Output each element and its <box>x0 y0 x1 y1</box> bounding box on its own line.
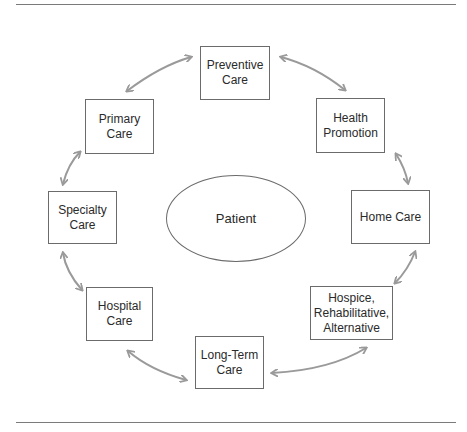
node-label: Health Promotion <box>323 111 378 141</box>
arrow-preventive-health <box>281 57 345 90</box>
arrow-specialty-primary <box>63 152 80 184</box>
node-primary-care: Primary Care <box>85 99 154 154</box>
node-label: Specialty Care <box>58 203 107 233</box>
arrow-hospital-specialty <box>63 253 82 290</box>
node-home-care: Home Care <box>351 190 430 244</box>
arrow-home-hospice <box>395 252 415 283</box>
arrow-longterm-hospital <box>128 351 186 380</box>
node-label: Preventive Care <box>207 58 264 88</box>
node-hospital-care: Hospital Care <box>86 287 153 341</box>
arrow-health-home <box>396 154 408 183</box>
patient-ellipse: Patient <box>166 175 306 262</box>
node-label: Primary Care <box>99 112 140 142</box>
node-health-promotion: Health Promotion <box>316 98 385 153</box>
node-specialty-care: Specialty Care <box>48 191 117 244</box>
node-label: Long-Term Care <box>201 348 258 378</box>
node-label: Hospice, Rehabilitative, Alternative <box>314 291 389 336</box>
node-long-term-care: Long-Term Care <box>195 336 264 389</box>
node-label: Home Care <box>360 210 421 225</box>
node-preventive-care: Preventive Care <box>200 46 270 100</box>
node-label: Hospital Care <box>98 299 141 329</box>
arrow-primary-preventive <box>127 57 191 91</box>
node-hospice-rehab-alternative: Hospice, Rehabilitative, Alternative <box>310 286 393 340</box>
patient-label: Patient <box>216 211 256 226</box>
arrow-hospice-longterm <box>272 348 366 373</box>
